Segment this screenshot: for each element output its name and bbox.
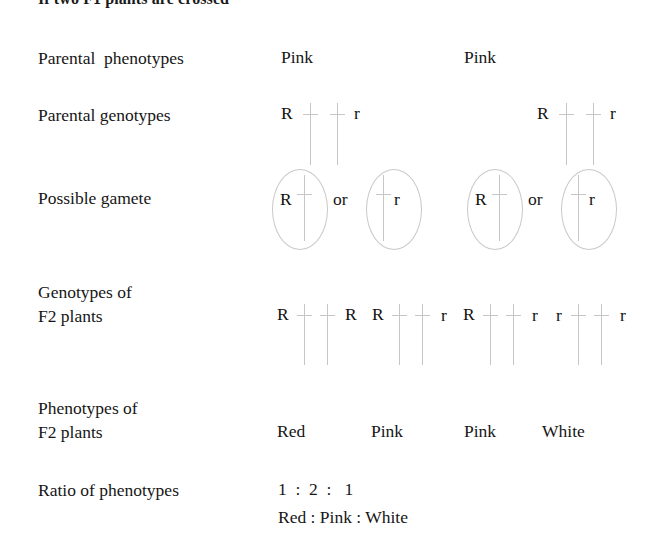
parent1-chromosome-2 xyxy=(337,103,338,165)
f2-genotype-1-chromosome-2 xyxy=(327,304,328,365)
ratio-names: Red : Pink : White xyxy=(278,506,408,528)
row-label-parental-genotypes: Parental genotypes xyxy=(38,103,171,127)
f2-genotype-2-chromosome-2 xyxy=(422,304,423,365)
f2-phenotype-value-3: Pink xyxy=(464,420,496,442)
gamete-allele-p2-b: r xyxy=(589,190,595,208)
f2-genotype-1-allele-left: R xyxy=(277,305,289,323)
f2-genotype-1-allele-right: R xyxy=(345,305,357,323)
diagram-heading: If two F1 plants are crossed xyxy=(38,0,229,8)
f2-phenotype-value-2: Pink xyxy=(371,420,403,442)
gamete-ellipse-p2-b xyxy=(561,169,617,250)
parent1-allele-left: R xyxy=(281,104,293,122)
gamete-chromosome-p2-b xyxy=(578,175,579,241)
row-label-ratio: Ratio of phenotypes xyxy=(38,478,179,502)
f2-genotype-4-chromosome-1 xyxy=(578,304,579,365)
parental-phenotype-value-2: Pink xyxy=(464,46,496,68)
gamete-ellipse-p2-a xyxy=(467,169,523,250)
f2-genotype-4-chromosome-2 xyxy=(601,304,602,365)
f2-genotype-4-allele-right: r xyxy=(620,306,626,324)
parent2-chromosome-1 xyxy=(566,103,567,165)
gamete-chromosome-p1-a xyxy=(304,175,305,241)
row-label-possible-gamete: Possible gamete xyxy=(38,186,151,210)
gamete-allele-p1-a: R xyxy=(280,190,292,208)
gamete-ellipse-p1-b xyxy=(366,169,422,250)
row-label-f2-phenotypes-line1: Phenotypes of xyxy=(38,396,138,420)
f2-genotype-3-chromosome-1 xyxy=(490,304,491,365)
row-label-f2-phenotypes-line2: F2 plants xyxy=(38,420,103,444)
row-label-f2-genotypes-line1: Genotypes of xyxy=(38,280,132,304)
parent2-allele-right: r xyxy=(610,104,616,122)
gamete-allele-p2-a: R xyxy=(475,190,487,208)
gamete-chromosome-p2-a xyxy=(499,175,500,241)
gamete-chromosome-p1-b xyxy=(383,175,384,241)
gamete-allele-p1-b: r xyxy=(394,190,400,208)
genetics-cross-diagram: If two F1 plants are crossed Parental ph… xyxy=(0,0,649,546)
gamete-conjunction-p2: or xyxy=(528,188,543,210)
parent2-allele-left: R xyxy=(537,104,549,122)
f2-genotype-2-chromosome-1 xyxy=(399,304,400,365)
f2-genotype-3-chromosome-2 xyxy=(513,304,514,365)
parent1-allele-right: r xyxy=(354,104,360,122)
f2-genotype-3-allele-left: R xyxy=(463,305,475,323)
gamete-conjunction-p1: or xyxy=(333,188,348,210)
ratio-numbers: 1 : 2 : 1 xyxy=(278,478,353,500)
f2-phenotype-value-1: Red xyxy=(277,420,305,442)
row-label-parental-phenotypes: Parental phenotypes xyxy=(38,46,184,70)
parent2-chromosome-2 xyxy=(593,103,594,165)
row-label-f2-genotypes-line2: F2 plants xyxy=(38,304,103,328)
f2-phenotype-value-4: White xyxy=(542,420,585,442)
parental-phenotype-value-1: Pink xyxy=(281,46,313,68)
parent1-chromosome-1 xyxy=(310,103,311,165)
f2-genotype-4-allele-left: r xyxy=(556,306,562,324)
f2-genotype-3-allele-right: r xyxy=(532,306,538,324)
f2-genotype-2-allele-right: r xyxy=(441,306,447,324)
f2-genotype-2-allele-left: R xyxy=(372,305,384,323)
gamete-ellipse-p1-a xyxy=(272,169,328,250)
f2-genotype-1-chromosome-1 xyxy=(304,304,305,365)
